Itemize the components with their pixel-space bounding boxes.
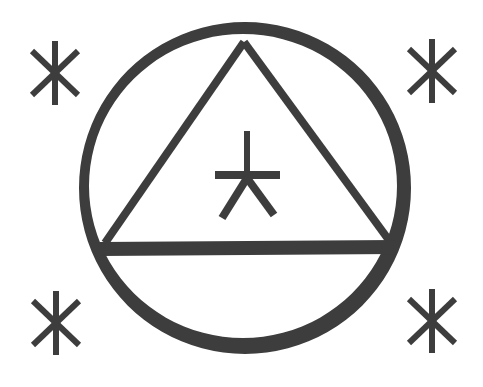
corner-glyph-bottom-right-icon xyxy=(409,289,455,353)
corner-glyph-top-left-icon xyxy=(32,41,78,105)
symbol-figure xyxy=(0,0,483,387)
corner-glyph-bottom-left-icon xyxy=(33,291,79,355)
center-glyph-icon xyxy=(215,131,280,218)
corner-glyph-top-right-icon xyxy=(409,39,455,103)
